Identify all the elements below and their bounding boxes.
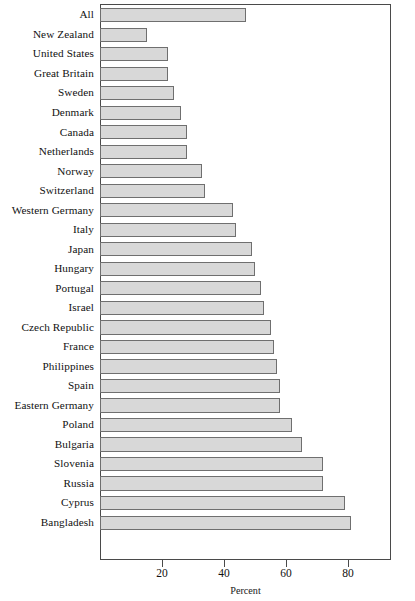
- category-label: Czech Republic: [0, 318, 94, 338]
- bar: [100, 340, 274, 354]
- category-label: All: [0, 5, 94, 25]
- category-label: Bulgaria: [0, 435, 94, 455]
- category-label: Bangladesh: [0, 513, 94, 533]
- category-label: Cyprus: [0, 493, 94, 513]
- bar-row: Denmark: [0, 103, 415, 123]
- bar-row: Great Britain: [0, 64, 415, 84]
- bar-row: Philippines: [0, 357, 415, 377]
- bar: [100, 418, 292, 432]
- bar: [100, 359, 277, 373]
- x-tick-label: 20: [142, 567, 182, 579]
- bar-row: Bangladesh: [0, 513, 415, 533]
- category-label: Portugal: [0, 279, 94, 299]
- bar: [100, 262, 255, 276]
- bar: [100, 145, 187, 159]
- x-axis-title: Percent: [100, 585, 391, 596]
- bar: [100, 516, 351, 530]
- category-label: Italy: [0, 220, 94, 240]
- category-label: Netherlands: [0, 142, 94, 162]
- category-label: Western Germany: [0, 201, 94, 221]
- bar: [100, 281, 261, 295]
- bar: [100, 496, 345, 510]
- bar: [100, 476, 323, 490]
- x-tick-label: 80: [328, 567, 368, 579]
- bar: [100, 437, 302, 451]
- bar: [100, 47, 168, 61]
- bar-row: Czech Republic: [0, 318, 415, 338]
- bar-row: Slovenia: [0, 454, 415, 474]
- x-tick-label: 60: [266, 567, 306, 579]
- bar: [100, 203, 233, 217]
- bar: [100, 320, 271, 334]
- bar-row: Hungary: [0, 259, 415, 279]
- bar: [100, 67, 168, 81]
- x-tick-mark: [348, 560, 349, 567]
- bar: [100, 379, 280, 393]
- category-label: Russia: [0, 474, 94, 494]
- category-label: France: [0, 337, 94, 357]
- x-tick-mark: [286, 560, 287, 567]
- bar-row: New Zealand: [0, 25, 415, 45]
- bar: [100, 164, 202, 178]
- category-label: United States: [0, 44, 94, 64]
- bar: [100, 8, 246, 22]
- bar-row: Norway: [0, 162, 415, 182]
- category-label: Eastern Germany: [0, 396, 94, 416]
- category-label: Philippines: [0, 357, 94, 377]
- category-rows: AllNew ZealandUnited StatesGreat Britain…: [0, 0, 415, 601]
- bar: [100, 184, 205, 198]
- bar-row: Sweden: [0, 83, 415, 103]
- bar-row: Eastern Germany: [0, 396, 415, 416]
- bar-row: United States: [0, 44, 415, 64]
- bar-row: Portugal: [0, 279, 415, 299]
- category-label: Israel: [0, 298, 94, 318]
- category-label: Denmark: [0, 103, 94, 123]
- category-label: Switzerland: [0, 181, 94, 201]
- bar-row: Bulgaria: [0, 435, 415, 455]
- bar: [100, 457, 323, 471]
- bar-row: Japan: [0, 240, 415, 260]
- category-label: Sweden: [0, 83, 94, 103]
- category-label: New Zealand: [0, 25, 94, 45]
- category-label: Great Britain: [0, 64, 94, 84]
- category-label: Spain: [0, 376, 94, 396]
- bar-row: Netherlands: [0, 142, 415, 162]
- bar: [100, 223, 236, 237]
- bar-row: Russia: [0, 474, 415, 494]
- bar-row: France: [0, 337, 415, 357]
- bar: [100, 86, 174, 100]
- x-tick-mark: [224, 560, 225, 567]
- category-label: Slovenia: [0, 454, 94, 474]
- bar-row: All: [0, 5, 415, 25]
- bar: [100, 125, 187, 139]
- bar-row: Canada: [0, 123, 415, 143]
- bar: [100, 398, 280, 412]
- x-tick-mark: [162, 560, 163, 567]
- bar-row: Spain: [0, 376, 415, 396]
- category-label: Hungary: [0, 259, 94, 279]
- bar-row: Western Germany: [0, 201, 415, 221]
- bar: [100, 301, 264, 315]
- bar: [100, 28, 147, 42]
- bar: [100, 242, 252, 256]
- bar-row: Cyprus: [0, 493, 415, 513]
- bar-row: Poland: [0, 415, 415, 435]
- x-tick-label: 40: [204, 567, 244, 579]
- category-label: Japan: [0, 240, 94, 260]
- category-label: Canada: [0, 123, 94, 143]
- bar-row: Switzerland: [0, 181, 415, 201]
- category-label: Norway: [0, 162, 94, 182]
- bar-row: Israel: [0, 298, 415, 318]
- category-label: Poland: [0, 415, 94, 435]
- bar-row: Italy: [0, 220, 415, 240]
- bar-chart: AllNew ZealandUnited StatesGreat Britain…: [0, 0, 415, 601]
- bar: [100, 106, 181, 120]
